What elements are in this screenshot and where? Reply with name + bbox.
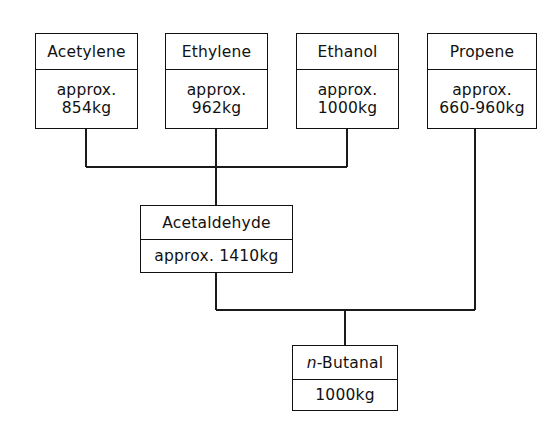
node-ethanol-title: Ethanol: [297, 34, 398, 70]
node-ethanol-value: approx. 1000kg: [297, 70, 398, 128]
node-acetylene-value: approx. 854kg: [36, 70, 137, 128]
node-ethanol-value-line-2: 1000kg: [318, 99, 377, 117]
node-ethanol[interactable]: Ethanol approx. 1000kg: [296, 33, 399, 129]
node-propene[interactable]: Propene approx. 660-960kg: [427, 33, 537, 129]
node-butanal-title-prefix: n: [307, 354, 317, 372]
node-acetaldehyde[interactable]: Acetaldehyde approx. 1410kg: [140, 205, 293, 273]
node-ethylene-value-line-2: 962kg: [192, 99, 241, 117]
node-acetylene-value-line-1: approx.: [57, 81, 117, 99]
node-acetaldehyde-value: approx. 1410kg: [141, 240, 292, 272]
node-propene-title: Propene: [428, 34, 536, 70]
node-acetylene-value-line-2: 854kg: [62, 99, 111, 117]
node-ethylene-value: approx. 962kg: [166, 70, 267, 128]
node-butanal-value: 1000kg: [293, 380, 397, 410]
node-ethylene[interactable]: Ethylene approx. 962kg: [165, 33, 268, 129]
node-ethanol-value-line-1: approx.: [318, 81, 378, 99]
node-butanal-value-line-1: 1000kg: [315, 386, 374, 404]
node-propene-value-line-2: 660-960kg: [439, 99, 524, 117]
node-butanal-title: n-Butanal: [293, 346, 397, 380]
node-propene-value: approx. 660-960kg: [428, 70, 536, 128]
node-acetaldehyde-title: Acetaldehyde: [141, 206, 292, 240]
node-acetaldehyde-value-line-1: approx. 1410kg: [154, 247, 278, 265]
node-ethylene-value-line-1: approx.: [187, 81, 247, 99]
node-acetylene[interactable]: Acetylene approx. 854kg: [35, 33, 138, 129]
node-butanal[interactable]: n-Butanal 1000kg: [292, 345, 398, 411]
flow-diagram-canvas: Acetylene approx. 854kg Ethylene approx.…: [0, 0, 555, 429]
node-acetylene-title: Acetylene: [36, 34, 137, 70]
node-butanal-title-suffix: -Butanal: [317, 354, 383, 372]
node-ethylene-title: Ethylene: [166, 34, 267, 70]
node-propene-value-line-1: approx.: [452, 81, 512, 99]
